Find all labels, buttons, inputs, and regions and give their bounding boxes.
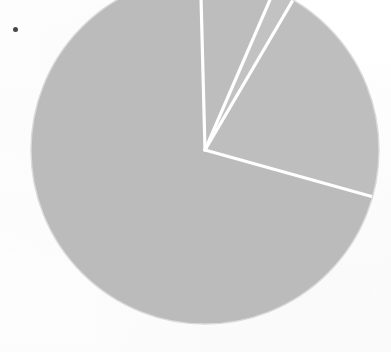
pie-chart: Slice 1 — 6.9%Slice 2 — 1.9%Slice 3 — 20… <box>0 0 391 352</box>
pie-chart-svg: Slice 1 — 6.9%Slice 2 — 1.9%Slice 3 — 20… <box>0 0 391 352</box>
pie-slice-layer: Slice 1 — 6.9%Slice 2 — 1.9%Slice 3 — 20… <box>31 0 379 324</box>
figure-canvas: Slice 1 — 6.9%Slice 2 — 1.9%Slice 3 — 20… <box>0 0 391 352</box>
